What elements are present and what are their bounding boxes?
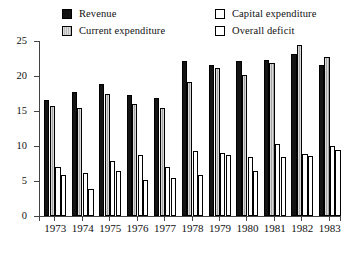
y-tick: 5: [34, 181, 39, 182]
y-tick: 15: [34, 111, 39, 112]
bar-group: [154, 41, 176, 216]
bar-current-expenditure: [132, 104, 137, 216]
bar-revenue: [182, 61, 187, 216]
x-tick: [219, 217, 220, 221]
bar-revenue: [291, 54, 296, 216]
bar-revenue: [209, 65, 214, 216]
bar-overall-deficit: [61, 175, 66, 216]
bar-current-expenditure: [269, 63, 274, 216]
y-tick-label: 20: [17, 71, 28, 81]
x-tick: [246, 217, 247, 221]
chart-legend: Revenue Current expenditure Capital expe…: [62, 8, 342, 42]
solid-black-swatch-icon: [62, 9, 72, 19]
bar-revenue: [154, 98, 159, 216]
bar-group: [127, 41, 149, 216]
bar-current-expenditure: [50, 106, 55, 216]
bar-group: [264, 41, 286, 216]
bar-current-expenditure: [187, 82, 192, 216]
x-axis-line: [39, 216, 341, 217]
bar-current-expenditure: [77, 108, 82, 216]
legend-label: Current expenditure: [79, 25, 165, 36]
x-tick-label: 1977: [154, 222, 176, 234]
bar-overall-deficit: [281, 157, 286, 217]
x-tick-label: 1979: [209, 222, 231, 234]
bar-current-expenditure: [160, 108, 165, 216]
bar-capital-expenditure: [110, 161, 115, 216]
bar-group: [319, 41, 341, 216]
bar-overall-deficit: [335, 150, 340, 217]
bar-capital-expenditure: [83, 173, 88, 216]
x-tick: [274, 217, 275, 221]
bar-group: [182, 41, 204, 216]
bar-group: [99, 41, 121, 216]
y-tick-label: 0: [22, 211, 27, 221]
x-tick-label: 1978: [182, 222, 204, 234]
bar-overall-deficit: [198, 175, 203, 216]
white-swatch-icon: [215, 26, 225, 36]
bar-capital-expenditure: [330, 146, 335, 216]
x-tick: [137, 217, 138, 221]
x-tick: [329, 217, 330, 221]
bar-group: [44, 41, 66, 216]
white-swatch-icon: [215, 9, 225, 19]
bar-overall-deficit: [116, 171, 121, 216]
bar-group: [236, 41, 258, 216]
x-tick: [164, 217, 165, 221]
x-tick-label: 1980: [236, 222, 258, 234]
x-tick-label: 1975: [99, 222, 121, 234]
bar-overall-deficit: [171, 178, 176, 217]
bar-capital-expenditure: [302, 154, 307, 216]
x-tick-label: 1973: [44, 222, 66, 234]
legend-item-revenue: Revenue: [62, 8, 116, 19]
bar-chart: Revenue Current expenditure Capital expe…: [0, 0, 353, 253]
y-tick-label: 25: [17, 36, 28, 46]
y-tick: 10: [34, 146, 39, 147]
x-axis-labels: 1973197419751976197719781979198019811982…: [39, 222, 341, 238]
bar-revenue: [264, 60, 269, 216]
bar-capital-expenditure: [55, 167, 60, 216]
x-tick-label: 1974: [72, 222, 94, 234]
gray-hatched-swatch-icon: [62, 26, 72, 36]
bar-capital-expenditure: [193, 151, 198, 216]
y-tick-label: 5: [22, 176, 27, 186]
bar-revenue: [319, 65, 324, 216]
x-tick-label: 1976: [127, 222, 149, 234]
x-tick: [109, 217, 110, 221]
x-tick: [192, 217, 193, 221]
plot-area: 0510152025: [39, 41, 341, 217]
bar-capital-expenditure: [275, 144, 280, 216]
bar-revenue: [99, 84, 104, 216]
legend-label: Capital expenditure: [232, 8, 316, 19]
y-tick-label: 10: [17, 141, 28, 151]
bar-current-expenditure: [105, 94, 110, 217]
x-tick-label: 1982: [291, 222, 313, 234]
bar-overall-deficit: [308, 156, 313, 216]
bar-current-expenditure: [215, 68, 220, 216]
x-tick: [301, 217, 302, 221]
legend-item-overall-deficit: Overall deficit: [215, 25, 294, 36]
bar-overall-deficit: [253, 171, 258, 216]
bar-current-expenditure: [297, 45, 302, 217]
x-tick: [39, 217, 40, 221]
bar-capital-expenditure: [220, 153, 225, 216]
y-tick: 20: [34, 76, 39, 77]
bar-revenue: [72, 92, 77, 216]
x-tick: [54, 217, 55, 221]
bar-current-expenditure: [324, 57, 329, 216]
y-tick: 25: [34, 41, 39, 42]
bar-group: [209, 41, 231, 216]
legend-label: Revenue: [79, 8, 116, 19]
bar-group: [72, 41, 94, 216]
legend-item-current-expenditure: Current expenditure: [62, 25, 165, 36]
bar-capital-expenditure: [248, 157, 253, 216]
legend-item-capital-expenditure: Capital expenditure: [215, 8, 316, 19]
bar-revenue: [44, 100, 49, 216]
x-tick-label: 1981: [264, 222, 286, 234]
x-tick-label: 1983: [319, 222, 341, 234]
bar-overall-deficit: [143, 180, 148, 216]
bar-group: [291, 41, 313, 216]
bar-revenue: [127, 95, 132, 216]
bar-series-container: [40, 41, 341, 216]
bar-capital-expenditure: [165, 167, 170, 216]
x-tick: [340, 217, 341, 221]
